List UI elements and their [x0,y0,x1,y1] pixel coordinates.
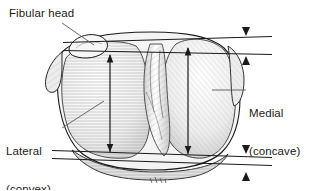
label-medial-line2: (concave) [249,145,300,158]
medial-condyle-hatch [162,39,236,158]
label-medial-line1: Medial [249,107,300,120]
figure-canvas: Fibular head Lateral (convex) Medial (co… [0,0,315,190]
label-fibular-head: Fibular head [9,7,74,20]
label-lateral-line1: Lateral [6,145,51,158]
tibial-plateau-drawing [45,32,244,183]
label-medial: Medial (concave) [249,82,300,182]
label-lateral-line2: (convex) [6,183,51,191]
arrowhead-top-down-icon [242,27,250,36]
arrowhead-top-up-icon [242,56,250,65]
label-lateral: Lateral (convex) [6,120,51,190]
